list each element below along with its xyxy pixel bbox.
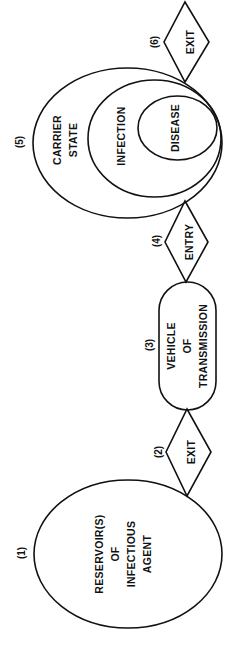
infection-label: INFECTION [115,106,127,165]
node-number-5: (5) [14,136,25,148]
node-number-2: (2) [153,446,164,458]
carrier-label-line2: STATE [67,123,79,157]
exit-6-label: EXIT [184,29,196,54]
disease-label: DISEASE [169,104,181,152]
exit-2-label: EXIT [185,439,197,464]
exit-diamond-6: EXIT (6) [149,2,209,82]
chain-of-infection-diagram: EXIT (6) (5) CARRIER STATE INFECTION DIS… [0,0,233,650]
reservoir-label-line1: RESERVOIR(S) [93,514,105,593]
vehicle-label-line1: VEHICLE [165,322,177,370]
node-number-1: (1) [16,547,27,559]
exit-diamond-2: EXIT (2) [153,409,211,496]
reservoir-label-line4: AGENT [141,535,153,574]
vehicle-label-line2: OF [181,338,193,353]
node-number-6: (6) [149,36,160,48]
reservoir-label-line2: OF [109,546,121,561]
entry-label: ENTRY [183,224,195,261]
host-nested-ellipses: (5) CARRIER STATE INFECTION DISEASE [14,68,222,218]
node-number-3: (3) [144,339,155,351]
vehicle-of-transmission-pill: (3) VEHICLE OF TRANSMISSION [144,282,216,410]
infection-ellipse [88,80,221,197]
reservoir-ellipse-1: (1) RESERVOIR(S) OF INFECTIOUS AGENT [16,480,222,628]
vehicle-label-line3: TRANSMISSION [197,304,209,388]
node-number-4: (4) [151,235,162,247]
reservoir-label-line3: INFECTIOUS [125,521,137,588]
carrier-label-line1: CARRIER [51,115,63,165]
